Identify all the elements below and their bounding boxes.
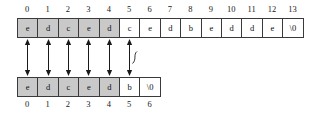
top-array-cell-9: e xyxy=(201,18,222,38)
top-array-index-1: 1 xyxy=(37,4,57,14)
match-arrow-3 xyxy=(86,39,91,76)
mismatch-arrow-5 xyxy=(127,39,137,76)
top-array-cell-4: d xyxy=(99,18,120,38)
match-arrow-2-head-up xyxy=(66,39,71,45)
top-array-index-3: 3 xyxy=(78,4,98,14)
match-arrow-0-head-up xyxy=(25,39,30,45)
top-array-cell-3: e xyxy=(78,18,99,38)
top-array-index-10: 10 xyxy=(221,4,241,14)
top-array-index-11: 11 xyxy=(241,4,261,14)
bottom-array-index-5: 5 xyxy=(119,99,139,109)
match-arrow-2 xyxy=(66,39,71,76)
top-array-cell-11: d xyxy=(241,18,262,38)
bottom-array-index-4: 4 xyxy=(99,99,119,109)
top-array-cell-0: e xyxy=(17,18,38,38)
bottom-array-index-2: 2 xyxy=(58,99,78,109)
top-array-cell-6: e xyxy=(139,18,160,38)
bottom-array-cell-4: d xyxy=(99,77,120,97)
top-array-index-2: 2 xyxy=(58,4,78,14)
match-arrow-4-head-down xyxy=(107,70,112,76)
top-array-index-0: 0 xyxy=(17,4,37,14)
match-arrow-1 xyxy=(46,39,51,76)
bottom-array-index-3: 3 xyxy=(78,99,98,109)
top-array-index-9: 9 xyxy=(201,4,221,14)
mismatch-slash-icon xyxy=(133,52,138,64)
top-array-index-7: 7 xyxy=(160,4,180,14)
top-array-cell-10: d xyxy=(221,18,242,38)
mismatch-arrow-5-head-up xyxy=(127,39,132,45)
top-array-cell-5: c xyxy=(119,18,140,38)
top-array-cell-7: d xyxy=(160,18,181,38)
top-array-index-8: 8 xyxy=(180,4,200,14)
top-array-index-5: 5 xyxy=(119,4,139,14)
bottom-array-cell-1: d xyxy=(37,77,58,97)
bottom-array-index-1: 1 xyxy=(37,99,57,109)
bottom-array-cell-6: \0 xyxy=(139,77,160,97)
bottom-array-cell-0: e xyxy=(17,77,38,97)
match-arrow-3-head-up xyxy=(86,39,91,45)
match-arrow-1-head-down xyxy=(46,70,51,76)
bottom-array-index-0: 0 xyxy=(17,99,37,109)
string-comparison-diagram: 012345678910111213 edcedcedbedde\0 edced… xyxy=(0,0,318,113)
match-arrow-2-head-down xyxy=(66,70,71,76)
match-arrow-3-head-down xyxy=(86,70,91,76)
top-array-cell-12: e xyxy=(262,18,283,38)
mismatch-arrow-5-head-down xyxy=(127,70,132,76)
match-arrow-0-head-down xyxy=(25,70,30,76)
top-array-index-13: 13 xyxy=(282,4,302,14)
bottom-array-cell-3: e xyxy=(78,77,99,97)
top-array-index-12: 12 xyxy=(262,4,282,14)
top-array-cell-8: b xyxy=(180,18,201,38)
match-arrow-0 xyxy=(25,39,30,76)
match-arrow-4 xyxy=(107,39,112,76)
match-arrow-1-head-up xyxy=(46,39,51,45)
top-array-cell-13: \0 xyxy=(282,18,303,38)
bottom-array-cell-5: b xyxy=(119,77,140,97)
match-arrow-4-head-up xyxy=(107,39,112,45)
top-array-cell-1: d xyxy=(37,18,58,38)
top-array-cell-2: c xyxy=(58,18,79,38)
bottom-array-cell-2: c xyxy=(58,77,79,97)
top-array-index-4: 4 xyxy=(99,4,119,14)
top-array-index-6: 6 xyxy=(139,4,159,14)
bottom-array-index-6: 6 xyxy=(139,99,159,109)
